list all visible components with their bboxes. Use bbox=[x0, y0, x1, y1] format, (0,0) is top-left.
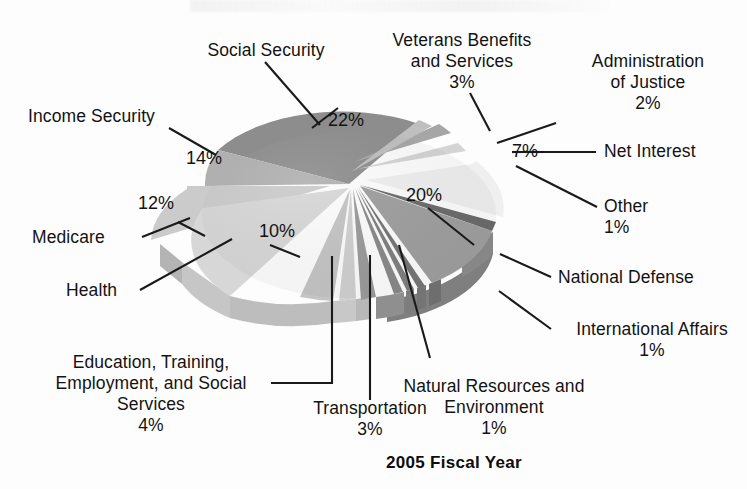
label-medicare: Medicare bbox=[32, 227, 152, 248]
label-international-affairs: International Affairs 1% bbox=[556, 319, 747, 361]
label-income-security: Income Security bbox=[28, 106, 188, 127]
label-veterans-benefits: Veterans Benefits and Services 3% bbox=[378, 30, 546, 93]
percent-health: 10% bbox=[259, 221, 295, 241]
label-administration-of-justice: Administration of Justice 2% bbox=[558, 51, 738, 114]
label-education: Education, Training, Employment, and Soc… bbox=[28, 352, 274, 436]
percent-net-interest: 7% bbox=[512, 141, 538, 161]
label-social-security: Social Security bbox=[196, 40, 336, 61]
percent-national-defense: 20% bbox=[406, 185, 442, 205]
chart-canvas: Social Security Veterans Benefits and Se… bbox=[0, 0, 747, 489]
chart-title: 2005 Fiscal Year bbox=[386, 453, 522, 473]
percent-medicare: 12% bbox=[138, 193, 174, 213]
percent-social-security: 22% bbox=[328, 110, 364, 130]
label-net-interest: Net Interest bbox=[604, 141, 744, 162]
pie-top-faces bbox=[151, 112, 504, 301]
label-national-defense: National Defense bbox=[558, 267, 747, 288]
label-health: Health bbox=[66, 280, 156, 301]
percent-income-security: 14% bbox=[186, 148, 222, 168]
label-natural-resources: Natural Resources and Environment 1% bbox=[388, 376, 600, 439]
label-other: Other 1% bbox=[604, 196, 694, 238]
